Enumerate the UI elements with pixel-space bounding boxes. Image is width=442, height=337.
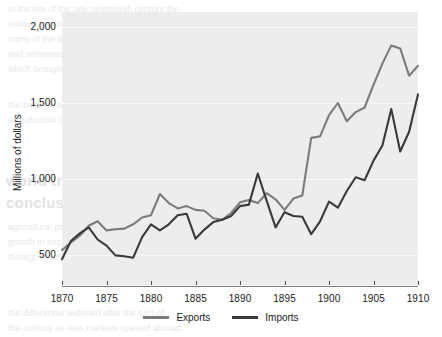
legend-swatch-icon <box>232 316 258 319</box>
legend-label: Imports <box>265 312 298 323</box>
x-axis-tick-label: 1910 <box>398 293 438 304</box>
x-axis-tick-label: 1895 <box>265 293 305 304</box>
x-axis-tick-label: 1875 <box>87 293 127 304</box>
x-axis-tick-mark <box>240 281 241 285</box>
x-axis-tick-mark <box>107 281 108 285</box>
x-axis-tick-label: 1890 <box>220 293 260 304</box>
x-axis-tick-label: 1880 <box>131 293 171 304</box>
legend-item-imports[interactable]: Imports <box>232 312 298 323</box>
x-axis-tick-mark <box>62 281 63 285</box>
x-axis-tick-label: 1885 <box>176 293 216 304</box>
chart-legend: ExportsImports <box>0 312 442 323</box>
series-line-imports <box>62 94 418 259</box>
x-axis-tick-label: 1870 <box>42 293 82 304</box>
x-axis-tick-label: 1905 <box>354 293 394 304</box>
x-axis-tick-mark <box>285 281 286 285</box>
legend-label: Exports <box>176 312 210 323</box>
legend-swatch-icon <box>143 316 169 319</box>
x-axis-tick-mark <box>151 281 152 285</box>
x-axis-tick-mark <box>374 281 375 285</box>
chart-figure: in the era of the late nineteenth centur… <box>0 0 442 337</box>
x-axis-tick-mark <box>196 281 197 285</box>
legend-item-exports[interactable]: Exports <box>143 312 210 323</box>
x-axis-tick-mark <box>418 281 419 285</box>
series-line-exports <box>62 45 418 250</box>
x-axis-line <box>62 286 418 287</box>
x-axis-tick-label: 1900 <box>309 293 349 304</box>
x-axis-tick-mark <box>329 281 330 285</box>
